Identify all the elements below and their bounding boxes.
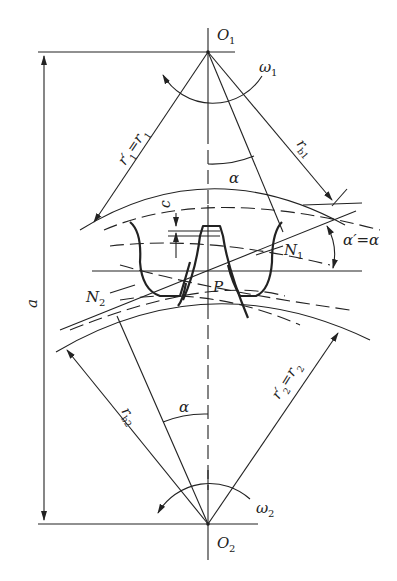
svg-text:2: 2 — [268, 508, 274, 519]
gear1-pitch-circle — [104, 208, 380, 231]
svg-text:2: 2 — [99, 297, 105, 308]
svg-text:1: 1 — [229, 35, 235, 46]
angle-alpha-prime-arc — [327, 226, 335, 268]
gear1-addendum-circle — [80, 189, 345, 230]
center-distance-label: a — [23, 299, 41, 308]
rotation-arrow-omega2 — [158, 483, 250, 513]
r2-label: r′ 2 =r 2 — [268, 359, 307, 404]
angle-alpha-top-arc — [208, 156, 254, 164]
center-point-o1 — [206, 50, 210, 54]
gear2-pitch-circle — [120, 296, 300, 325]
svg-text:1: 1 — [271, 67, 277, 78]
gear2-addendum-circle — [56, 304, 370, 352]
n2-label: N — [85, 288, 100, 306]
svg-text:2: 2 — [229, 543, 235, 554]
rb2-label: r b2 — [116, 404, 141, 429]
omega2-label: ω — [256, 499, 268, 517]
pitch-point-label: P — [212, 278, 224, 296]
svg-text:1: 1 — [297, 250, 303, 261]
line-o1-n1 — [208, 52, 283, 232]
alpha-top-label: α — [229, 169, 239, 187]
n2-leader — [110, 285, 135, 293]
pitch-radius-r2 — [208, 333, 338, 524]
rb1-label: r b1 — [291, 136, 317, 162]
center-o1-label: O — [217, 26, 229, 44]
gear-mesh-diagram: a O 1 O 2 ω 1 α r′ 1 =r 1 r b1 N 1 N 2 — [0, 0, 397, 581]
omega1-label: ω — [259, 58, 271, 76]
alpha-bottom-label: α — [179, 398, 189, 416]
pressure-angle-label: α′=α — [343, 231, 379, 249]
base-radius-rb2 — [67, 350, 208, 524]
gear1-tooth-left — [130, 222, 190, 296]
center-point-o2 — [206, 522, 210, 526]
clearance-label: c — [157, 200, 173, 208]
n1-label: N — [283, 241, 298, 259]
center-o2-label: O — [217, 534, 229, 552]
